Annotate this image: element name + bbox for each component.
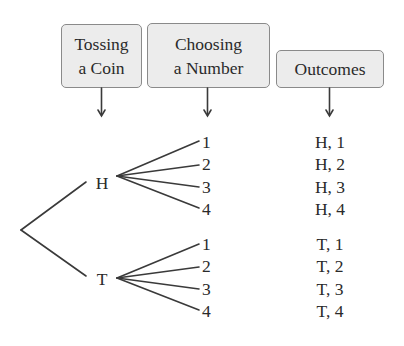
node-tails: T [97,269,108,289]
branch-root-t [21,230,86,276]
outcome-h4: H, 4 [315,199,345,219]
outcome-t1: T, 1 [317,234,344,254]
node-h-1: 1 [202,132,211,152]
node-t-1: 1 [202,234,211,254]
node-h-2: 2 [202,154,211,174]
branch-root-h [21,182,86,230]
outcome-h2: H, 2 [315,154,345,174]
outcome-t2: T, 2 [317,256,344,276]
down-arrow-icon [326,88,333,116]
outcome-t3: T, 3 [317,279,344,299]
down-arrow-icon [98,88,105,116]
node-heads: H [96,173,109,193]
node-h-4: 4 [202,199,211,219]
outcome-t4: T, 4 [317,301,344,321]
node-t-4: 4 [202,301,211,321]
outcome-h3: H, 3 [315,177,345,197]
down-arrow-icon [204,88,211,116]
node-h-3: 3 [202,177,211,197]
node-t-2: 2 [202,256,211,276]
outcome-h1: H, 1 [315,132,345,152]
node-t-3: 3 [202,279,211,299]
